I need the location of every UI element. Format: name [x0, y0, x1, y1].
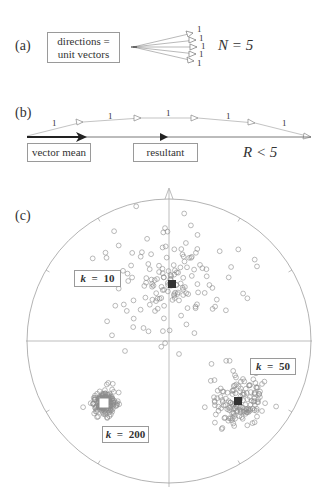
unit-label: 1	[226, 111, 231, 121]
unit-label: 1	[197, 58, 202, 68]
k10-label-box: k = 10	[74, 270, 121, 287]
unit-label: 1	[166, 108, 171, 118]
unit-vector-fan	[133, 31, 197, 63]
k-symbol: k	[81, 272, 87, 284]
n-equals-label: N = 5	[218, 37, 253, 54]
k50-label-box: k = 50	[250, 358, 296, 375]
k-symbol: k	[256, 360, 262, 372]
unit-label: 1	[282, 118, 287, 128]
k-value: 50	[279, 360, 290, 372]
unit-label: 1	[108, 111, 113, 121]
r-less-than-label: R < 5	[243, 144, 277, 161]
equals: =	[92, 272, 98, 284]
k-value: 10	[103, 272, 114, 284]
box-line-1: directions =	[48, 35, 119, 48]
data-points	[81, 204, 279, 431]
figure-canvas	[0, 0, 325, 496]
k200-label-box: k = 200	[102, 426, 149, 443]
vector-mean-box: vector mean	[27, 143, 91, 162]
equals: =	[117, 428, 123, 440]
equals: =	[267, 360, 273, 372]
panel-a-label: (a)	[15, 38, 31, 54]
resultant-box: resultant	[133, 143, 198, 162]
mean-marker-k10	[168, 280, 176, 288]
box-line-2: unit vectors	[48, 48, 119, 61]
resultant-arrowhead	[160, 133, 168, 141]
vector-chain	[27, 115, 311, 139]
k-symbol: k	[106, 428, 112, 440]
unit-label: 1	[52, 118, 57, 128]
panel-c-label: (c)	[15, 208, 31, 224]
mean-marker-k50	[234, 397, 242, 405]
stereonet	[26, 188, 312, 487]
panel-b-label: (b)	[15, 105, 31, 121]
k-value: 200	[129, 428, 146, 440]
unit-vectors-box: directions = unit vectors	[47, 32, 120, 63]
mean-marker-k200	[100, 399, 108, 407]
